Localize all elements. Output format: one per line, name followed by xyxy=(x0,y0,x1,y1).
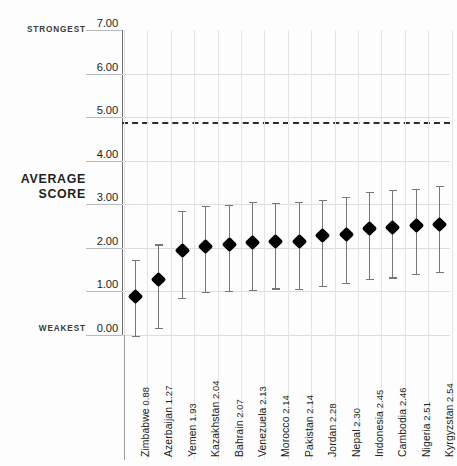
x-axis-label-text: Azerbaijan 1.27 xyxy=(163,386,174,457)
error-bar-cap-upper xyxy=(249,202,257,203)
error-bar-cap-lower xyxy=(178,298,186,299)
vertical-gridline xyxy=(194,30,195,335)
data-point-marker[interactable] xyxy=(338,227,354,243)
y-tick-rule xyxy=(86,74,122,75)
y-tick-label: 2.00 xyxy=(97,235,118,247)
score-range-chart: STRONGEST AVERAGE SCORE WEAKEST 7.006.00… xyxy=(0,0,457,466)
x-axis-label-text: Pakistan 2.14 xyxy=(304,395,315,457)
y-tick-label: 7.00 xyxy=(97,17,118,29)
error-bar-cap-lower xyxy=(249,290,257,291)
country-name: Nepal xyxy=(351,429,362,457)
x-axis-label-text: Yemen 1.93 xyxy=(187,403,198,457)
x-axis-label-text: Bahrain 2.07 xyxy=(234,399,245,457)
error-bar-cap-lower xyxy=(436,272,444,273)
y-axis-title: AVERAGE SCORE xyxy=(4,172,86,202)
y-tick-rule xyxy=(86,117,122,118)
x-axis-label-text: Nigeria 2.51 xyxy=(421,402,432,457)
country-score: 1.27 xyxy=(163,386,174,407)
country-score: 2.14 xyxy=(280,395,291,416)
y-tick-rule xyxy=(86,291,122,292)
vertical-gridline xyxy=(405,30,406,335)
x-axis-labels: Zimbabwe 0.88Azerbaijan 1.27Yemen 1.93Ka… xyxy=(122,335,450,466)
x-axis-label-text: Jordan 2.28 xyxy=(327,403,338,457)
weakest-label: WEAKEST xyxy=(8,324,86,333)
x-axis-label-text: Kyrgyzstan 2.54 xyxy=(444,383,455,457)
country-score: 2.13 xyxy=(257,386,268,407)
y-tick-label: 3.00 xyxy=(97,191,118,203)
data-point-marker[interactable] xyxy=(409,218,425,234)
country-name: Bahrain xyxy=(234,420,245,457)
vertical-gridline xyxy=(452,30,453,335)
error-bar-cap-upper xyxy=(272,203,280,204)
country-name: Kazakhstan xyxy=(210,402,221,457)
y-tick-rule xyxy=(86,30,122,31)
error-bar-cap-upper xyxy=(436,186,444,187)
data-point-marker[interactable] xyxy=(198,238,214,254)
y-axis-title-line1: AVERAGE xyxy=(4,172,86,187)
data-point-marker[interactable] xyxy=(362,220,378,236)
country-name: Kyrgyzstan xyxy=(444,405,455,457)
country-score: 2.14 xyxy=(304,395,315,416)
data-point-marker[interactable] xyxy=(221,237,237,253)
plot-area xyxy=(122,30,450,335)
country-name: Cambodia xyxy=(397,409,408,457)
x-axis-label-text: Indonesia 2.45 xyxy=(374,390,385,457)
error-bar-cap-lower xyxy=(295,289,303,290)
country-score: 2.46 xyxy=(397,387,408,408)
vertical-gridline xyxy=(358,30,359,335)
country-name: Zimbabwe xyxy=(140,408,151,457)
y-axis: 7.006.005.004.003.002.001.000.00 xyxy=(86,0,122,466)
country-score: 2.30 xyxy=(351,408,362,429)
y-axis-title-line2: SCORE xyxy=(4,187,86,202)
error-bar-cap-lower xyxy=(342,283,350,284)
x-axis-label-text: Venezuela 2.13 xyxy=(257,386,268,457)
country-name: Nigeria xyxy=(421,423,432,457)
x-axis-label-text: Kazakhstan 2.04 xyxy=(210,380,221,457)
y-tick-label: 5.00 xyxy=(97,104,118,116)
country-score: 2.45 xyxy=(374,390,385,411)
vertical-gridline xyxy=(428,30,429,335)
axis-annotation-column: STRONGEST AVERAGE SCORE WEAKEST xyxy=(0,0,86,466)
y-tick-rule xyxy=(86,161,122,162)
error-bar-cap-upper xyxy=(155,244,163,245)
x-axis-label-text: Zimbabwe 0.88 xyxy=(140,387,151,457)
strongest-label: STRONGEST xyxy=(8,25,86,34)
data-point-marker[interactable] xyxy=(315,228,331,244)
y-tick-rule xyxy=(86,248,122,249)
country-name: Pakistan xyxy=(304,416,315,457)
country-score: 0.88 xyxy=(140,387,151,408)
error-bar-cap-lower xyxy=(412,274,420,275)
error-bar-cap-upper xyxy=(366,192,374,193)
error-bar-cap-upper xyxy=(202,206,210,207)
y-tick-label: 0.00 xyxy=(97,322,118,334)
data-point-marker[interactable] xyxy=(432,217,448,233)
error-bar-cap-upper xyxy=(225,205,233,206)
error-bar-cap-lower xyxy=(225,291,233,292)
country-name: Azerbaijan xyxy=(163,407,174,457)
country-score: 2.51 xyxy=(421,402,432,423)
error-bar-cap-lower xyxy=(272,288,280,289)
data-point-marker[interactable] xyxy=(175,243,191,259)
y-tick-rule xyxy=(86,204,122,205)
country-score: 2.28 xyxy=(327,403,338,424)
y-tick-label: 6.00 xyxy=(97,61,118,73)
y-tick-rule xyxy=(86,335,122,336)
y-tick-label: 4.00 xyxy=(97,148,118,160)
error-bar-cap-lower xyxy=(202,292,210,293)
country-score: 2.54 xyxy=(444,383,455,404)
error-bar-cap-upper xyxy=(295,202,303,203)
x-axis-label-text: Cambodia 2.46 xyxy=(397,387,408,457)
data-point-marker[interactable] xyxy=(385,220,401,236)
error-bar-cap-upper xyxy=(412,189,420,190)
x-axis-label-text: Nepal 2.30 xyxy=(351,408,362,457)
vertical-gridline xyxy=(311,30,312,335)
country-score: 2.04 xyxy=(210,380,221,401)
vertical-gridline xyxy=(171,30,172,335)
vertical-gridline xyxy=(218,30,219,335)
error-bar-cap-upper xyxy=(319,200,327,201)
vertical-gridline xyxy=(335,30,336,335)
data-point-marker[interactable] xyxy=(151,272,167,288)
vertical-gridline xyxy=(381,30,382,335)
error-bar-cap-upper xyxy=(178,211,186,212)
country-score: 1.93 xyxy=(187,403,198,424)
